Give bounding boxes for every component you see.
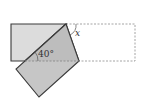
- angle-x-label: x: [75, 28, 80, 38]
- fold-diagram: 40° x: [0, 0, 148, 112]
- angle-40-label: 40°: [38, 49, 54, 59]
